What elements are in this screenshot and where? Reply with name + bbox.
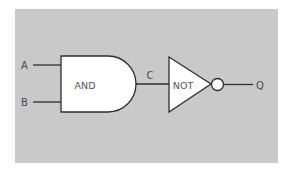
and-gate-label: AND bbox=[75, 80, 96, 91]
wire-c-label: C bbox=[147, 70, 154, 81]
not-bubble bbox=[212, 79, 224, 91]
input-a-label: A bbox=[21, 60, 28, 71]
output-q-label: Q bbox=[256, 80, 264, 91]
not-gate-label: NOT bbox=[173, 80, 194, 91]
input-b-label: B bbox=[21, 97, 28, 108]
and-gate bbox=[61, 56, 136, 112]
logic-diagram: A B AND C NOT Q bbox=[0, 0, 290, 173]
diagram-panel bbox=[15, 9, 278, 163]
